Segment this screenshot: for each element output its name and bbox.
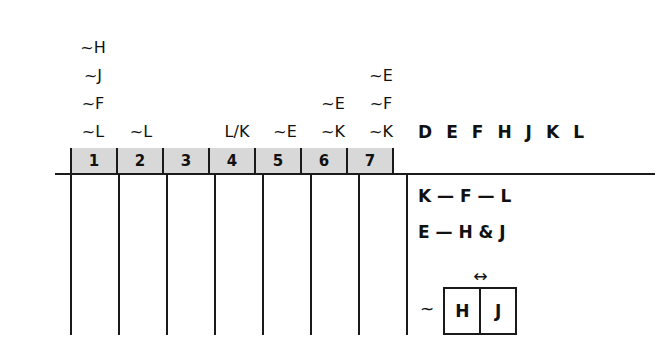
slot-3: 3 [162, 148, 208, 173]
roster-entity: L [573, 122, 584, 142]
block-stack: ↔ H J [443, 268, 517, 335]
annotation-column-2: ~L [118, 10, 164, 146]
slot-divider [310, 175, 312, 335]
annotation-note: L/K [225, 118, 250, 146]
roster-entity: D [418, 122, 432, 142]
roster-entity: K [546, 122, 559, 142]
annotation-column-6: ~E ~K [310, 10, 356, 146]
annotation-note: ~E [273, 118, 297, 146]
annotation-note: ~J [84, 62, 102, 90]
slot-divider [166, 175, 168, 335]
column-annotations: ~H ~J ~F ~L ~L L/K ~E ~E ~K ~E ~F ~K [70, 10, 408, 146]
slot-band: 1 2 3 4 5 6 7 [70, 148, 394, 173]
block-rule: ~ ↔ H J [420, 268, 517, 335]
roster-entity: H [497, 122, 511, 142]
annotation-note: ~K [321, 118, 345, 146]
reversible-arrow-icon: ↔ [473, 268, 487, 284]
slot-6: 6 [300, 148, 346, 173]
annotation-column-1: ~H ~J ~F ~L [70, 10, 116, 146]
block-cell-j: J [479, 289, 515, 333]
block-cell-h: H [445, 289, 479, 333]
rule-list: K — F — L E — H & J [418, 186, 511, 242]
roster-entity: J [526, 122, 532, 142]
annotation-note: ~H [80, 34, 105, 62]
slot-7: 7 [346, 148, 392, 173]
roster-entity: E [446, 122, 458, 142]
annotation-note: ~K [369, 118, 393, 146]
annotation-column-5: ~E [262, 10, 308, 146]
annotation-column-4: L/K [214, 10, 260, 146]
annotation-note: ~E [369, 62, 393, 90]
slot-4: 4 [208, 148, 254, 173]
slot-1: 1 [70, 148, 116, 173]
slot-divider [358, 175, 360, 335]
slot-divider [214, 175, 216, 335]
slot-divider [118, 175, 120, 335]
annotation-note: ~F [82, 90, 105, 118]
baseline-rule [55, 173, 655, 175]
block-cells: H J [443, 287, 517, 335]
slot-divider [406, 175, 408, 335]
annotation-column-7: ~E ~F ~K [358, 10, 404, 146]
annotation-note: ~L [82, 118, 104, 146]
annotation-note: ~E [321, 90, 345, 118]
slot-divider [262, 175, 264, 335]
chain-rule-kfl: K — F — L [418, 186, 511, 206]
logic-game-diagram: ~H ~J ~F ~L ~L L/K ~E ~E ~K ~E ~F ~K D E… [0, 0, 663, 357]
annotation-note: ~L [130, 118, 152, 146]
slot-2: 2 [116, 148, 162, 173]
chain-rule-ehj: E — H & J [418, 222, 511, 242]
negation-symbol: ~ [420, 299, 434, 319]
slot-divider [70, 175, 72, 335]
roster-entity: F [472, 122, 484, 142]
entity-roster: D E F H J K L [418, 122, 584, 142]
annotation-column-3 [166, 10, 212, 146]
slot-5: 5 [254, 148, 300, 173]
annotation-note: ~F [370, 90, 393, 118]
